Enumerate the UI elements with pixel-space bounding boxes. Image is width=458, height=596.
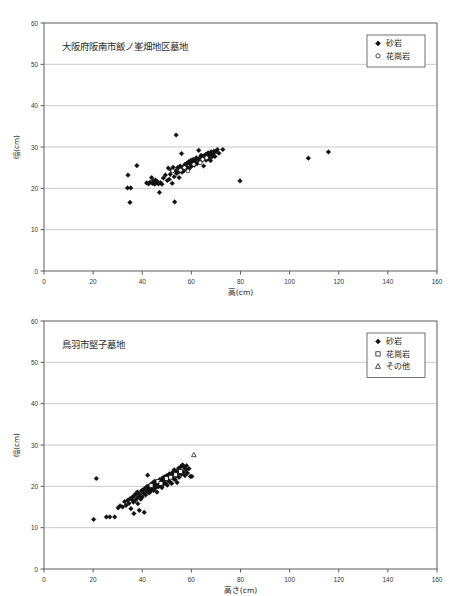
chart-bottom-xtick-label: 140 <box>383 576 394 583</box>
chart-bottom-xtick-label: 80 <box>237 576 245 583</box>
marker-circle <box>183 166 187 170</box>
chart-top-render: 0102030405060020406080100120140160高(cm)幅… <box>12 20 443 297</box>
marker-circle <box>171 169 175 173</box>
chart-top-ytick-label: 20 <box>31 185 39 192</box>
marker-square <box>376 352 380 356</box>
marker-circle <box>201 157 205 161</box>
chart-top-xaxis-label: 高(cm) <box>228 287 254 297</box>
chart-bottom-ytick-label: 50 <box>31 359 39 366</box>
chart-bottom-ytick-label: 10 <box>31 524 39 531</box>
scatter-chart-bottom: 0102030405060020406080100120140160高さ(cm)… <box>0 298 458 596</box>
chart-bottom-ytick-label: 20 <box>31 483 39 490</box>
chart-top-yaxis-label: 幅(cm) <box>12 135 21 159</box>
marker-circle <box>205 156 209 160</box>
chart-top-legend-label: 花崗岩 <box>386 51 410 61</box>
chart-top-ytick-label: 30 <box>31 144 39 151</box>
chart-top-xtick-label: 100 <box>284 278 295 285</box>
marker-square <box>164 477 168 481</box>
chart-bottom-legend-label: 砂岩 <box>386 336 402 346</box>
chart-bottom-ytick-label: 0 <box>34 566 38 573</box>
chart-top-xtick-label: 140 <box>383 278 394 285</box>
scatter-chart-top: 0102030405060020406080100120140160高(cm)幅… <box>0 0 458 298</box>
chart-top-ytick-label: 40 <box>31 102 39 109</box>
marker-square <box>179 470 183 474</box>
chart-bottom-xtick-label: 20 <box>90 576 98 583</box>
chart-bottom-xtick-label: 160 <box>432 576 443 583</box>
chart-bottom-svg: 0102030405060020406080100120140160高さ(cm)… <box>0 298 458 596</box>
chart-bottom-xtick-label: 40 <box>139 576 147 583</box>
chart-top-svg: 0102030405060020406080100120140160高(cm)幅… <box>0 0 458 298</box>
chart-top-ytick-label: 50 <box>31 61 39 68</box>
chart-bottom-yaxis-label: 幅(cm) <box>12 433 21 457</box>
chart-top-xtick-label: 60 <box>188 278 196 285</box>
chart-bottom-xtick-label: 100 <box>284 576 295 583</box>
chart-top-ytick-label: 60 <box>31 20 39 27</box>
chart-top-ytick-label: 10 <box>31 226 39 233</box>
chart-bottom-ytick-label: 60 <box>31 318 39 325</box>
figure-page: 0102030405060020406080100120140160高(cm)幅… <box>0 0 458 596</box>
marker-square <box>159 482 163 486</box>
marker-circle <box>192 162 196 166</box>
marker-square <box>169 475 173 479</box>
chart-bottom-title: 鳥羽市堅子墓地 <box>62 339 126 350</box>
chart-bottom-legend-label: その他 <box>386 361 410 371</box>
chart-bottom-legend-label: 花崗岩 <box>386 349 410 359</box>
chart-top-xtick-label: 40 <box>139 278 147 285</box>
chart-top-title: 大阪府阪南市飯ノ峯畑地区墓地 <box>62 41 189 52</box>
chart-top-xtick-label: 160 <box>432 278 443 285</box>
marker-circle <box>179 168 183 172</box>
chart-bottom-render: 0102030405060020406080100120140160高さ(cm)… <box>12 318 443 595</box>
chart-bottom-xtick-label: 60 <box>188 576 196 583</box>
marker-circle <box>376 54 380 58</box>
chart-bottom-xtick-label: 120 <box>333 576 344 583</box>
chart-top-legend-label: 砂岩 <box>386 38 402 48</box>
marker-square <box>149 484 153 488</box>
chart-top-xtick-label: 20 <box>90 278 98 285</box>
chart-top-xtick-label: 80 <box>237 278 245 285</box>
chart-top-xtick-label: 120 <box>333 278 344 285</box>
chart-bottom-ytick-label: 30 <box>31 442 39 449</box>
chart-top-ytick-label: 0 <box>34 268 38 275</box>
chart-bottom-xaxis-label: 高さ(cm) <box>224 585 258 595</box>
chart-top-xtick-label: 0 <box>42 278 46 285</box>
marker-circle <box>186 169 190 173</box>
chart-bottom-xtick-label: 0 <box>42 576 46 583</box>
chart-bottom-ytick-label: 40 <box>31 400 39 407</box>
marker-square <box>174 473 178 477</box>
